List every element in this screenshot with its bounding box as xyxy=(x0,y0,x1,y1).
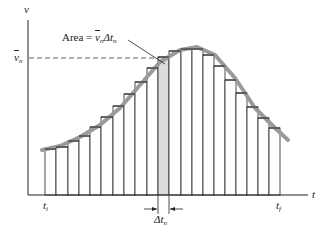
area-v-sub: n xyxy=(100,37,104,45)
bar xyxy=(181,49,192,195)
bar xyxy=(79,136,90,195)
bar xyxy=(45,149,56,195)
tf-sub: f xyxy=(279,205,281,213)
bar xyxy=(269,128,280,195)
bar xyxy=(147,68,158,195)
y-axis-label: v xyxy=(24,4,29,15)
bar xyxy=(56,147,68,195)
bar xyxy=(135,82,147,195)
highlighted-bar xyxy=(158,57,169,195)
area-prefix: Area = xyxy=(62,31,95,43)
dt-sub: n xyxy=(164,219,168,227)
bar xyxy=(113,106,124,195)
bar xyxy=(258,118,269,195)
bar xyxy=(225,80,236,195)
bar xyxy=(90,127,101,195)
bar xyxy=(169,51,181,195)
vbar-label: vn xyxy=(14,52,22,63)
bar xyxy=(101,117,113,195)
bar xyxy=(236,93,247,195)
area-label: Area = vnΔtn xyxy=(62,32,116,43)
bar xyxy=(247,107,258,195)
x-axis-label: t xyxy=(312,189,315,200)
tf-label: tf xyxy=(276,200,281,211)
bar xyxy=(192,49,203,195)
rectangle-bars xyxy=(45,49,280,195)
dt-arrow-left xyxy=(144,207,157,211)
bar xyxy=(203,55,214,195)
area-pointer-line xyxy=(128,40,165,64)
bar xyxy=(214,66,225,195)
bar xyxy=(124,94,135,195)
area-delta: Δt xyxy=(103,31,113,43)
ti-label: ti xyxy=(43,200,48,211)
ti-sub: i xyxy=(46,205,48,213)
bar xyxy=(68,141,79,195)
dt-arrow-right xyxy=(170,207,183,211)
dt-label: Δtn xyxy=(154,214,167,225)
area-delta-sub: n xyxy=(113,37,117,45)
dt-main: Δt xyxy=(154,213,164,225)
vbar-sub: n xyxy=(19,57,23,65)
